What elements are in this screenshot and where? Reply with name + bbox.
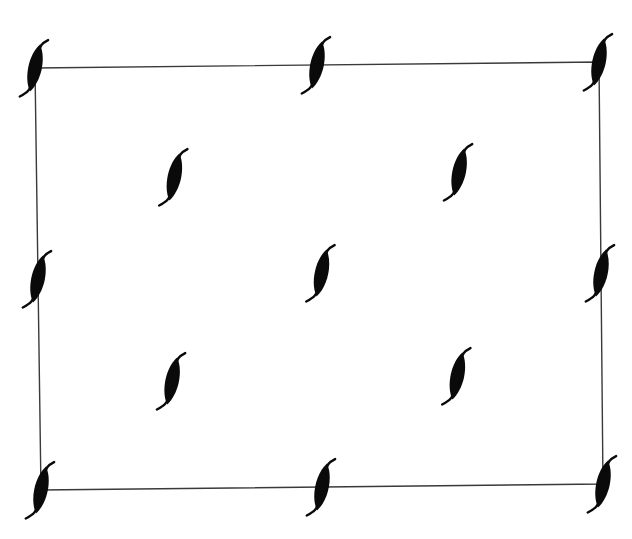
- leaf-body-shape: [161, 356, 184, 406]
- leaf-glyph-inner-ll: [157, 350, 185, 413]
- leaf-body-shape: [589, 248, 612, 298]
- leaf-body-shape: [163, 152, 186, 202]
- glyph-layer: [20, 31, 616, 522]
- leaf-body-shape: [26, 254, 49, 304]
- leaf-glyph-inner-ul: [159, 146, 187, 209]
- leaf-body-shape: [310, 248, 333, 298]
- leaf-glyph-center: [306, 242, 334, 305]
- leaf-body-shape: [448, 147, 471, 197]
- leaf-body-shape: [446, 351, 469, 401]
- leaf-glyph-mid-left: [23, 248, 51, 311]
- leaf-glyph-inner-lr: [442, 345, 470, 408]
- leaf-glyph-mid-right: [586, 242, 614, 305]
- leaf-glyph-inner-ur: [444, 141, 472, 204]
- lattice-diagram: [0, 0, 632, 539]
